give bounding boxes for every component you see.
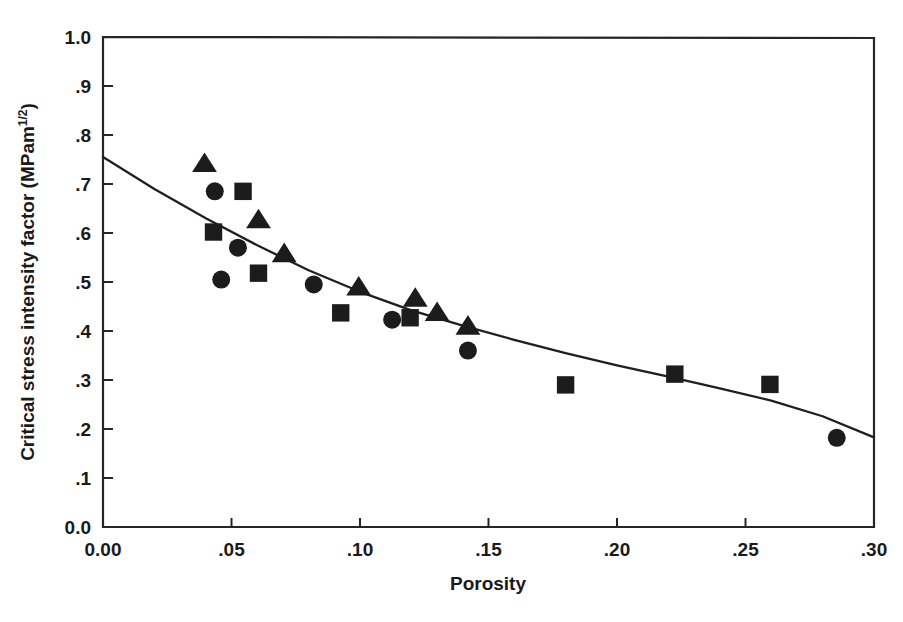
data-point-square	[557, 376, 574, 393]
data-point-square	[401, 309, 418, 326]
x-axis-ticks	[232, 518, 746, 527]
y-tick-label: .4	[75, 321, 91, 342]
y-tick-label: .3	[75, 370, 91, 391]
x-axis-title: Porosity	[450, 573, 526, 594]
data-point-square	[205, 223, 222, 240]
y-tick-label: .2	[75, 419, 91, 440]
data-point-circle	[305, 275, 323, 293]
data-point-triangle	[346, 276, 371, 296]
data-point-circle	[828, 429, 846, 447]
y-axis-ticks	[103, 86, 113, 478]
y-tick-label: .5	[75, 272, 91, 293]
data-point-circle	[212, 271, 230, 289]
y-axis-title-suffix: )	[17, 103, 38, 109]
y-tick-label: .7	[75, 174, 91, 195]
data-point-triangle	[272, 243, 297, 263]
data-point-square	[761, 376, 778, 393]
y-tick-label: .8	[75, 125, 91, 146]
data-point-circle	[206, 182, 224, 200]
data-point-square	[234, 183, 251, 200]
x-tick-label: .15	[475, 539, 502, 560]
y-tick-label: .6	[75, 223, 91, 244]
x-tick-label: .25	[732, 539, 759, 560]
y-axis-title-main: Critical stress intensity factor (MPam	[17, 126, 38, 461]
y-tick-label: 1.0	[65, 27, 91, 48]
x-axis-tick-labels: 0.00.05.10.15.20.25.30	[85, 539, 888, 560]
data-point-square	[250, 264, 267, 281]
data-points	[192, 152, 846, 446]
data-point-triangle	[403, 287, 428, 307]
y-tick-label: 0.0	[65, 517, 91, 538]
data-point-square	[332, 304, 349, 321]
data-point-triangle	[246, 209, 271, 229]
data-point-circle	[459, 342, 477, 360]
data-point-circle	[383, 311, 401, 329]
chart-canvas: 0.00.05.10.15.20.25.30 0.0.1.2.3.4.5.6.7…	[0, 0, 903, 622]
data-point-square	[666, 365, 683, 382]
y-axis-title-superscript: 1/2	[16, 109, 30, 126]
y-tick-label: .9	[75, 76, 91, 97]
data-point-triangle	[425, 301, 450, 321]
y-tick-label: .1	[75, 468, 91, 489]
data-point-circle	[229, 239, 247, 257]
x-tick-label: .20	[604, 539, 630, 560]
x-tick-label: .30	[861, 539, 887, 560]
x-tick-label: 0.00	[85, 539, 122, 560]
y-axis-title: Critical stress intensity factor (MPam1/…	[16, 103, 38, 461]
figure-container: 0.00.05.10.15.20.25.30 0.0.1.2.3.4.5.6.7…	[0, 0, 903, 622]
y-axis-title-text: Critical stress intensity factor (MPam1/…	[16, 103, 38, 461]
y-axis-tick-labels: 0.0.1.2.3.4.5.6.7.8.91.0	[65, 27, 92, 538]
x-tick-label: .10	[347, 539, 373, 560]
x-tick-label: .05	[218, 539, 245, 560]
data-point-triangle	[192, 152, 217, 172]
